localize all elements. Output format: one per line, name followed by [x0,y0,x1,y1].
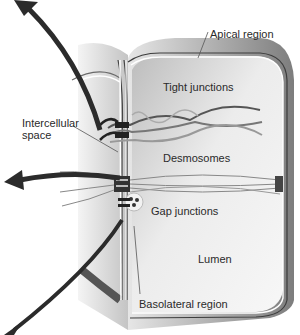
label-basolateral-region: Basolateral region [139,298,228,310]
label-apical-region: Apical region [210,28,274,40]
label-lumen: Lumen [198,253,232,265]
epithelial-junction-diagram: Apical region Tight junctions Intercellu… [0,0,300,335]
diagram-graphic [0,0,300,335]
label-desmosomes: Desmosomes [163,152,230,164]
label-gap-junctions: Gap junctions [151,205,218,217]
label-intercellular-space-line2: space [22,129,51,141]
label-intercellular-space-line1: Intercellular [22,117,79,129]
label-tight-junctions: Tight junctions [163,81,234,93]
